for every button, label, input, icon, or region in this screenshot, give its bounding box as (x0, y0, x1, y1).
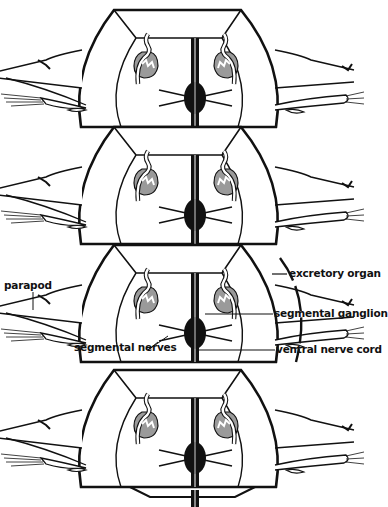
label-parapod: parapod (4, 280, 52, 291)
label-excretory-organ: excretory organ (289, 268, 381, 279)
label-segmental-nerves: segmental nerves (74, 342, 177, 353)
segment-1 (0, 10, 364, 127)
segment-4 (0, 370, 364, 487)
label-ventral-nerve-cord: ventral nerve cord (276, 344, 382, 355)
segment-2 (0, 127, 364, 244)
label-segmental-ganglion: segmental ganglion (274, 308, 388, 319)
